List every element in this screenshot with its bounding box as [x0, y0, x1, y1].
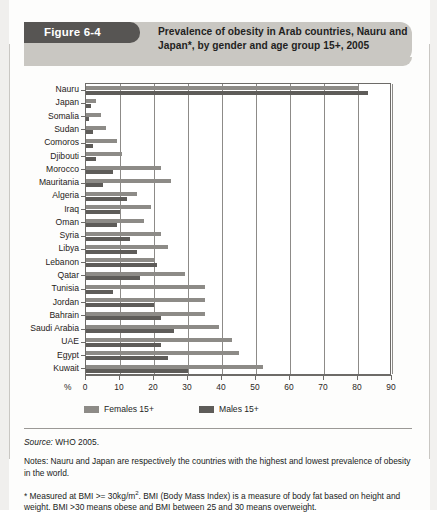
bar-syria-males [86, 237, 130, 241]
legend-label-males: Males 15+ [219, 404, 259, 414]
y-tick [81, 103, 85, 104]
x-axis-label-0: 0 [83, 382, 88, 392]
bar-jordan-males [86, 303, 154, 307]
legend-swatch-females [84, 406, 99, 413]
bar-row [86, 97, 390, 110]
bar-morocco-females [86, 166, 161, 170]
bar-iraq-males [86, 210, 120, 214]
x-tick-50 [255, 375, 256, 380]
y-axis-label-morocco: Morocco [46, 164, 79, 174]
bar-uae-females [86, 338, 232, 342]
y-axis-label-algeria: Algeria [52, 190, 79, 200]
y-tick [81, 368, 85, 369]
x-axis-label-10: 10 [114, 382, 123, 392]
bar-djibouti-males [86, 157, 96, 161]
x-tick-10 [119, 375, 120, 380]
y-axis-label-lebanon: Lebanon [46, 257, 79, 267]
bar-tunisia-males [86, 290, 113, 294]
bar-tunisia-females [86, 285, 205, 289]
bar-nauru-males [86, 91, 368, 95]
bar-djibouti-females [86, 152, 122, 156]
bar-row [86, 256, 390, 269]
x-axis-label-50: 50 [250, 382, 259, 392]
y-axis-label-egypt: Egypt [57, 350, 79, 360]
bar-libya-males [86, 250, 137, 254]
bar-saudi-arabia-females [86, 325, 219, 329]
bar-row [86, 310, 390, 323]
y-tick [81, 90, 85, 91]
x-tick-60 [289, 375, 290, 380]
bar-jordan-females [86, 298, 205, 302]
bar-saudi-arabia-males [86, 329, 174, 333]
y-axis-label-tunisia: Tunisia [52, 283, 79, 293]
bar-somalia-males [86, 117, 89, 121]
bar-morocco-males [86, 170, 113, 174]
bar-row [86, 363, 390, 376]
y-axis-label-saudi-arabia: Saudi Arabia [30, 323, 79, 333]
source-line: Source: WHO 2005. [24, 437, 412, 447]
bar-row [86, 296, 390, 309]
y-axis-label-mauritania: Mauritania [39, 177, 79, 187]
page-right-rule [429, 44, 430, 459]
bar-comoros-females [86, 139, 117, 143]
x-tick-0 [85, 375, 86, 380]
source-text: WHO 2005. [53, 437, 99, 447]
gridline-90 [392, 84, 393, 374]
bar-japan-females [86, 99, 96, 103]
y-tick [81, 196, 85, 197]
bar-nauru-females [86, 86, 358, 90]
bar-kuwait-males [86, 369, 188, 373]
y-axis-label-jordan: Jordan [53, 297, 79, 307]
x-axis-label-80: 80 [352, 382, 361, 392]
y-axis-label-uae: UAE [61, 336, 79, 346]
legend-label-females: Females 15+ [104, 404, 154, 414]
bar-row [86, 243, 390, 256]
bar-row [86, 124, 390, 137]
legend-item-males: Males 15+ [199, 404, 259, 414]
y-tick [81, 289, 85, 290]
y-axis-label-oman: Oman [56, 217, 79, 227]
y-tick [81, 156, 85, 157]
y-tick [81, 169, 85, 170]
bar-japan-males [86, 104, 91, 108]
y-tick [81, 143, 85, 144]
y-tick [81, 222, 85, 223]
bar-rows [86, 84, 390, 374]
y-axis-label-djibouti: Djibouti [50, 151, 79, 161]
y-tick [81, 329, 85, 330]
bar-lebanon-males [86, 263, 157, 267]
bar-egypt-females [86, 351, 239, 355]
x-tick-70 [323, 375, 324, 380]
bar-bahrain-females [86, 312, 205, 316]
bar-row [86, 84, 390, 97]
x-axis-unit-label: % [64, 382, 71, 392]
y-tick [81, 302, 85, 303]
bar-somalia-females [86, 113, 101, 117]
bar-sudan-males [86, 130, 93, 134]
footer-divider [24, 428, 412, 429]
bar-row [86, 177, 390, 190]
bar-lebanon-females [86, 258, 154, 262]
bar-mauritania-females [86, 179, 171, 183]
y-axis-label-sudan: Sudan [54, 124, 79, 134]
bar-qatar-males [86, 276, 140, 280]
y-axis-label-nauru: Nauru [56, 84, 79, 94]
legend-item-females: Females 15+ [84, 404, 154, 414]
x-axis-label-70: 70 [318, 382, 327, 392]
y-tick [81, 209, 85, 210]
bar-kuwait-females [86, 365, 263, 369]
notes-text: Notes: Nauru and Japan are respectively … [24, 456, 412, 479]
figure-header: Figure 6-4 Prevalence of obesity in Arab… [24, 22, 412, 66]
bar-row [86, 111, 390, 124]
bar-row [86, 217, 390, 230]
bar-row [86, 349, 390, 362]
bar-oman-males [86, 223, 117, 227]
bar-iraq-females [86, 205, 151, 209]
bar-row [86, 270, 390, 283]
y-axis-label-qatar: Qatar [58, 270, 80, 280]
x-tick-20 [153, 375, 154, 380]
figure-number-badge: Figure 6-4 [24, 22, 140, 43]
legend-swatch-males [199, 406, 214, 413]
y-tick [81, 129, 85, 130]
